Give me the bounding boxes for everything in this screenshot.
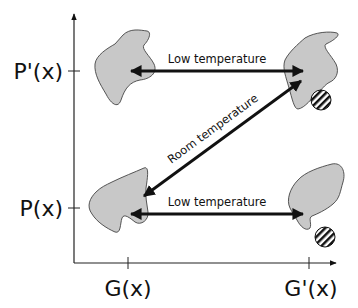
x-tick-label-g: G(x) — [104, 276, 151, 301]
blob-bottom-left — [89, 168, 148, 233]
arrow-label-diagonal: Room temperature — [165, 91, 261, 166]
blob-top-left — [95, 30, 155, 105]
arrow-top-low-temperature: Low temperature — [131, 52, 303, 71]
double-arrow-icon — [144, 81, 301, 196]
protein-shape-icon — [89, 168, 148, 233]
ligand-striped-icon — [315, 227, 335, 247]
x-tick-label-g-prime: G'(x) — [284, 276, 337, 301]
y-tick-label-p: P(x) — [20, 196, 63, 221]
arrow-label-top: Low temperature — [168, 52, 267, 66]
arrow-diagonal-room-temperature: Room temperature — [144, 81, 301, 196]
y-tick-label-p-prime: P'(x) — [14, 59, 64, 84]
arrow-bottom-low-temperature: Low temperature — [131, 195, 303, 214]
protein-shape-icon — [288, 164, 344, 230]
protein-shape-icon — [95, 30, 155, 105]
blob-bottom-right — [288, 164, 344, 247]
arrow-label-bottom: Low temperature — [168, 195, 267, 209]
energy-landscape-diagram: P'(x) P(x) G(x) G'(x) Low temperature Lo… — [0, 0, 358, 308]
ligand-striped-icon — [311, 90, 331, 110]
